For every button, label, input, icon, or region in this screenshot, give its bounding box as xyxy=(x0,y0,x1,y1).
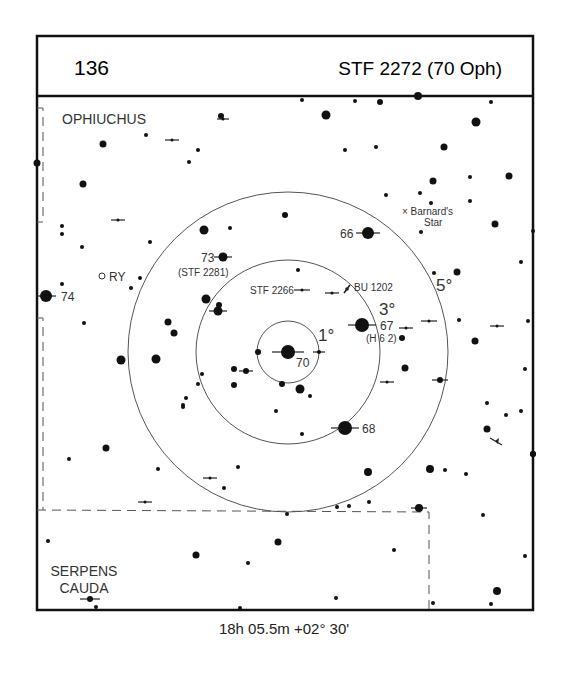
star xyxy=(399,335,405,341)
star xyxy=(60,282,64,286)
star-label: Star xyxy=(424,217,443,228)
star xyxy=(294,289,310,292)
star xyxy=(492,221,499,228)
star xyxy=(430,178,437,185)
star xyxy=(484,426,491,433)
star-label: 68 xyxy=(362,422,376,436)
star xyxy=(347,504,351,508)
star-labels: 706673(STF 2281)74RYSTF 2266BU 120267(H … xyxy=(61,206,453,436)
star-label: BU 1202 xyxy=(354,282,393,293)
star xyxy=(238,606,242,610)
star xyxy=(103,445,110,452)
star xyxy=(356,227,380,239)
star xyxy=(519,409,523,413)
star xyxy=(34,160,41,167)
star xyxy=(380,381,394,384)
star xyxy=(200,372,204,376)
star xyxy=(343,148,347,152)
star xyxy=(530,451,536,457)
star xyxy=(485,401,489,405)
star xyxy=(489,100,493,104)
star-label: 66 xyxy=(340,227,354,241)
star xyxy=(322,111,331,120)
target-name: STF 2272 (70 Oph) xyxy=(338,58,502,79)
star xyxy=(504,413,508,417)
star xyxy=(94,605,98,609)
star xyxy=(196,148,200,152)
star xyxy=(148,240,152,244)
star xyxy=(335,505,339,509)
star xyxy=(300,98,304,102)
star xyxy=(275,539,282,546)
chart-coordinates: 18h 05.5m +02° 30' xyxy=(0,620,568,637)
star-label: (STF 2281) xyxy=(178,267,229,278)
star xyxy=(399,327,413,330)
star xyxy=(80,181,87,188)
star xyxy=(331,421,359,435)
star xyxy=(231,366,237,372)
star xyxy=(374,145,378,149)
star xyxy=(300,432,304,436)
star xyxy=(432,271,436,275)
star xyxy=(138,501,152,504)
star xyxy=(392,548,396,552)
star xyxy=(313,350,325,354)
star-label: RY xyxy=(109,270,125,284)
star xyxy=(117,356,126,365)
star xyxy=(468,199,472,203)
star xyxy=(523,367,527,371)
star xyxy=(129,286,133,290)
star xyxy=(454,269,461,276)
star-label: 74 xyxy=(61,290,75,304)
star xyxy=(353,99,357,103)
star xyxy=(80,596,100,602)
star xyxy=(216,302,222,308)
star xyxy=(200,226,209,235)
chart-number: 136 xyxy=(74,56,109,79)
star xyxy=(193,552,200,559)
star xyxy=(531,229,535,233)
variable-star-ry-icon xyxy=(99,273,105,279)
star xyxy=(67,457,71,461)
star xyxy=(411,504,427,512)
star xyxy=(156,467,160,471)
field-circle-label: 1° xyxy=(318,326,334,345)
star xyxy=(60,224,64,228)
star xyxy=(426,465,434,473)
star-label: 67 xyxy=(380,319,394,333)
star xyxy=(441,144,448,151)
star xyxy=(464,472,468,476)
field-circle-label: 5° xyxy=(436,276,452,295)
star xyxy=(279,381,285,387)
star xyxy=(421,320,437,323)
star xyxy=(419,230,423,234)
proper-motion-arrow-icon xyxy=(490,438,502,445)
star xyxy=(209,307,227,316)
star xyxy=(202,295,211,304)
star xyxy=(384,193,388,197)
star xyxy=(282,212,288,218)
star xyxy=(493,587,501,595)
constellation-name: SERPENS xyxy=(51,563,118,579)
star xyxy=(296,385,305,394)
star xyxy=(46,539,50,543)
star-field xyxy=(34,92,537,610)
star xyxy=(82,321,86,325)
star xyxy=(364,468,372,476)
star xyxy=(138,276,142,280)
star xyxy=(348,318,376,332)
star xyxy=(236,465,240,469)
star xyxy=(231,382,237,388)
field-circle-label: 3° xyxy=(379,300,395,319)
star xyxy=(184,396,188,400)
star-label: (H 6 2) xyxy=(366,333,397,344)
star xyxy=(171,330,178,337)
star-label: × Barnard's xyxy=(402,206,453,217)
star xyxy=(429,201,433,205)
star xyxy=(472,338,479,345)
star xyxy=(431,601,435,605)
star xyxy=(60,232,64,236)
star xyxy=(377,99,383,105)
star xyxy=(80,245,84,249)
star xyxy=(481,513,485,517)
